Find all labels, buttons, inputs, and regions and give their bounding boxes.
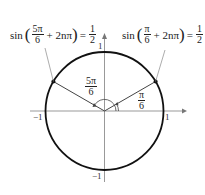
radius-pi-over-6 [105, 82, 156, 112]
arg-denominator: 6 [35, 35, 40, 45]
plus-term: + 2nπ [154, 29, 180, 41]
equation-left: sin ( 5π6 + 2nπ ) = 12 [10, 24, 97, 45]
leader-line-right [156, 50, 165, 82]
angle-denominator: 6 [139, 101, 144, 111]
angle-denominator: 6 [89, 87, 94, 97]
y-axis-arrow-icon [102, 33, 107, 39]
rhs-denominator: 2 [197, 35, 202, 45]
tick-y-neg: −1 [92, 171, 102, 181]
plus-term: + 2nπ [47, 29, 73, 41]
tick-x-neg: −1 [33, 112, 43, 122]
equals-sign: = [80, 29, 86, 41]
equation-right: sin ( π6 + 2nπ ) = 12 [122, 24, 204, 45]
leader-line-left [45, 48, 53, 82]
arc-5pi-over-6 [95, 99, 117, 111]
tick-y-pos: 1 [98, 41, 103, 51]
x-axis-arrow-icon [182, 109, 187, 114]
rhs-denominator: 2 [90, 35, 95, 45]
angle-label-pi-over-6: π6 [137, 89, 146, 111]
equals-sign: = [187, 29, 193, 41]
func-label: sin [122, 29, 135, 41]
tick-x-pos: 1 [165, 112, 170, 122]
angle-label-5pi-over-6: 5π6 [84, 75, 98, 97]
func-label: sin [10, 29, 23, 41]
arg-denominator: 6 [145, 35, 150, 45]
